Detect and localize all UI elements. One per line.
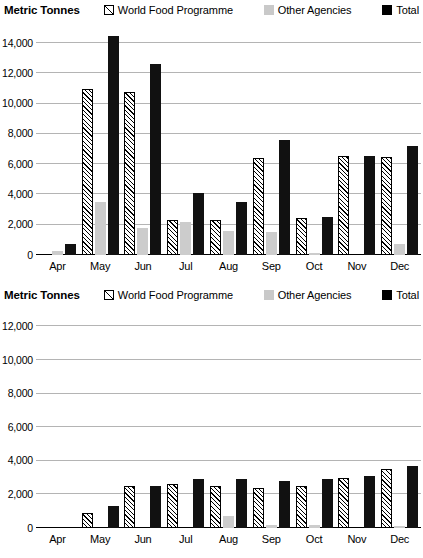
chart1-bar-wfp-jul[interactable] [167,220,178,255]
chart2-ytick-label: 2,000 [8,489,33,500]
chart2-bar-wfp-jun[interactable] [124,486,135,528]
gray-square-icon [264,290,274,300]
chart1-bar-group [164,28,207,255]
chart2-bar-groups [36,313,421,528]
chart2-ytick-zero: 0 [27,523,33,534]
chart1-bar-total-aug[interactable] [236,202,247,255]
chart2-bar-other-oct[interactable] [309,525,320,528]
chart2-bar-wfp-dec[interactable] [381,469,392,528]
chart2-legend-entry-total: Total [382,289,419,301]
chart2-bar-group [378,313,421,528]
chart1-xtick-label: Apr [36,259,79,273]
hatched-square-icon [104,5,114,15]
chart2-legend-label-total: Total [396,289,419,301]
chart2-bar-total-sep[interactable] [279,481,290,528]
chart2-bar-wfp-sep[interactable] [253,488,264,528]
chart1-bar-group [378,28,421,255]
chart1-bar-wfp-oct[interactable] [296,218,307,255]
chart2-bar-other-aug[interactable] [223,516,234,528]
chart2-xtick-label: Apr [36,532,79,546]
chart1-bar-total-jun[interactable] [150,64,161,255]
chart1-bar-total-dec[interactable] [407,146,418,255]
chart2-bar-total-dec[interactable] [407,466,418,528]
chart1-bar-other-jul[interactable] [180,222,191,255]
chart1-bar-wfp-nov[interactable] [338,156,349,255]
chart1-bar-wfp-may[interactable] [82,89,93,255]
chart1-bar-other-oct[interactable] [309,253,320,255]
chart1-xtick-label: Nov [335,259,378,273]
chart2-bar-wfp-aug[interactable] [210,486,221,528]
chart2-bar-group [207,313,250,528]
chart1-bar-other-apr[interactable] [52,251,63,255]
chart2-xtick-label: Dec [378,532,421,546]
chart2-bar-group [122,313,165,528]
chart2-bar-wfp-oct[interactable] [296,486,307,528]
chart1-legend-items: World Food Programme Other Agencies Tota… [104,4,423,16]
chart2-plot-area: 0 2,0004,0006,0008,00010,00012,000 [36,313,421,528]
chart1-legend: Metric Tonnes World Food Programme Other… [0,0,423,20]
chart1-legend-entry-total: Total [382,4,419,16]
chart1-ytick-label: 2,000 [8,219,33,230]
chart-page: Metric Tonnes World Food Programme Other… [0,0,423,558]
chart2-bar-group [335,313,378,528]
chart2-bar-wfp-nov[interactable] [338,478,349,528]
chart2-ytick-label: 12,000 [2,321,33,332]
chart2-bar-total-nov[interactable] [364,476,375,528]
chart2-bar-group [36,313,79,528]
chart1-bar-total-may[interactable] [108,36,119,255]
chart2-xtick-label: Nov [335,532,378,546]
chart2-bar-other-sep[interactable] [266,525,277,528]
chart2-bar-other-dec[interactable] [394,526,405,528]
chart1-bar-group [335,28,378,255]
chart1-ytick-label: 6,000 [8,159,33,170]
chart2-legend-entry-wfp: World Food Programme [104,289,233,301]
chart1-bar-other-may[interactable] [95,202,106,255]
chart2-bar-total-may[interactable] [108,506,119,528]
chart1-xtick-label: Dec [378,259,421,273]
chart2-bar-total-aug[interactable] [236,479,247,528]
chart1-bar-group [36,28,79,255]
chart1-ytick-label: 12,000 [2,68,33,79]
chart2-bar-group [164,313,207,528]
chart1-legend-entry-other: Other Agencies [264,4,352,16]
chart1-ytick-label: 8,000 [8,129,33,140]
chart1-axis-title: Metric Tonnes [4,4,80,16]
chart1-bar-other-dec[interactable] [394,244,405,255]
chart2-bar-total-jul[interactable] [193,479,204,528]
chart1-xtick-label: Sep [250,259,293,273]
chart1-bar-wfp-sep[interactable] [253,158,264,255]
chart2-bar-wfp-jul[interactable] [167,484,178,528]
chart1-ytick-zero: 0 [27,250,33,261]
chart1-bar-other-aug[interactable] [223,231,234,255]
chart1-bar-wfp-aug[interactable] [210,220,221,255]
chart2-bar-group [79,313,122,528]
chart1-plot: 0 2,0004,0006,0008,00010,00012,00014,000… [0,20,423,285]
chart2-bar-total-jun[interactable] [150,486,161,528]
chart1-bar-total-sep[interactable] [279,140,290,255]
chart1-bar-groups [36,28,421,255]
chart1-ytick-label: 4,000 [8,189,33,200]
chart1-bar-total-apr[interactable] [65,244,76,255]
chart2-bar-wfp-may[interactable] [82,513,93,528]
chart1-bar-total-nov[interactable] [364,156,375,255]
chart1-bar-other-sep[interactable] [266,232,277,255]
chart1-legend-label-total: Total [396,4,419,16]
chart1-plot-area: 0 2,0004,0006,0008,00010,00012,00014,000 [36,28,421,255]
chart2-xtick-label: May [79,532,122,546]
chart1-bar-other-jun[interactable] [137,228,148,255]
chart2-bar-total-oct[interactable] [322,479,333,528]
chart1-bar-total-jul[interactable] [193,193,204,255]
chart2-plot: 0 2,0004,0006,0008,00010,00012,000 AprMa… [0,305,423,558]
chart2-ytick-label: 4,000 [8,456,33,467]
chart1-bar-wfp-jun[interactable] [124,92,135,255]
chart1-bar-group [250,28,293,255]
chart1-bar-total-oct[interactable] [322,217,333,255]
chart-panel-bottom: Metric Tonnes World Food Programme Other… [0,285,423,558]
chart2-xtick-label: Jun [122,532,165,546]
chart1-xtick-label: Jun [122,259,165,273]
chart2-bar-group [250,313,293,528]
chart2-xtick-label: Jul [164,532,207,546]
chart2-legend-label-wfp: World Food Programme [118,289,233,301]
chart1-bar-wfp-dec[interactable] [381,157,392,255]
hatched-square-icon [104,290,114,300]
